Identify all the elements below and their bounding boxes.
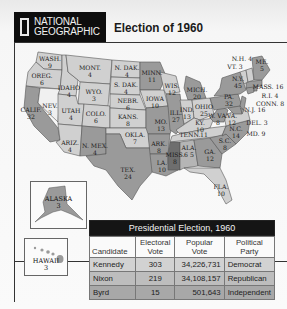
cell-party: Republican — [224, 272, 274, 286]
cell-party: Independent — [224, 286, 274, 300]
cell-popular: 34,226,731 — [175, 258, 224, 272]
cell-electoral: 219 — [136, 272, 175, 286]
svg-text:PA.32: PA.32 — [224, 93, 234, 107]
national-geographic-logo: NATIONAL GEOGRAPHIC — [14, 12, 106, 42]
col-candidate: Candidate — [90, 237, 136, 258]
cell-party: Democrat — [224, 258, 274, 272]
col-electoral-vote: ElectoralVote — [136, 237, 175, 258]
col-political-party: PoliticalParty — [224, 237, 274, 258]
results-table-title: Presidential Election, 1960 — [89, 220, 275, 236]
cell-electoral: 303 — [136, 258, 175, 272]
svg-text:R.I.4: R.I.4 — [262, 92, 279, 99]
svg-text:LA.10: LA.10 — [157, 159, 168, 173]
svg-text:VT.3: VT.3 — [226, 63, 243, 70]
table-row: Byrd 15 501,643 Independent — [90, 286, 275, 300]
svg-text:MD.9: MD.9 — [247, 130, 266, 137]
svg-text:N.H.4: N.H.4 — [232, 55, 252, 62]
hawaii-ev: 3 — [25, 265, 67, 272]
results-grid: Candidate ElectoralVote PopularVote Poli… — [89, 236, 275, 300]
hawaii-inset: HAWAII 3 — [24, 238, 68, 276]
cell-candidate: Kennedy — [90, 258, 136, 272]
col-popular-vote: PopularVote — [175, 237, 224, 258]
cell-popular: 34,108,157 — [175, 272, 224, 286]
cell-candidate: Byrd — [90, 286, 136, 300]
table-row: Nixon 219 34,108,157 Republican — [90, 272, 275, 286]
svg-text:CONN.8: CONN.8 — [256, 100, 284, 107]
map-title: Election of 1960 — [114, 20, 203, 35]
cell-candidate: Nixon — [90, 272, 136, 286]
svg-text:TENN.11: TENN.11 — [179, 131, 208, 138]
cell-electoral: 15 — [136, 286, 175, 300]
table-header-row: Candidate ElectoralVote PopularVote Poli… — [90, 237, 275, 258]
table-row: Kennedy 303 34,226,731 Democrat — [90, 258, 275, 272]
yellow-border-icon — [20, 18, 29, 36]
svg-text:N.J.16: N.J.16 — [245, 106, 266, 114]
logo-line-2: GEOGRAPHIC — [34, 27, 100, 37]
alaska-ev: 3 — [31, 203, 86, 210]
cell-popular: 501,643 — [175, 286, 224, 300]
page: NATIONAL GEOGRAPHIC Election of 1960 — [0, 0, 287, 309]
alaska-inset: ALASKA 3 — [30, 181, 87, 229]
header: NATIONAL GEOGRAPHIC Election of 1960 — [14, 12, 213, 42]
svg-text:MASS.16: MASS.16 — [253, 83, 284, 90]
svg-text:DEL.3: DEL.3 — [246, 119, 268, 126]
results-table: Presidential Election, 1960 Candidate El… — [89, 220, 275, 300]
